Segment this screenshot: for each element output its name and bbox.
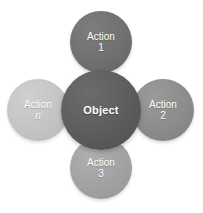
node-action-n[interactable]: Action n	[7, 79, 69, 141]
node-action-2-label-line2: 2	[160, 110, 166, 121]
node-action-3-label-line1: Action	[87, 157, 115, 168]
node-action-3-label-line2: 3	[98, 168, 104, 179]
node-object-center[interactable]: Object	[61, 70, 141, 150]
node-action-1-label-line2: 1	[98, 42, 104, 53]
node-object-label: Object	[83, 104, 118, 116]
node-action-1-label-line1: Action	[87, 31, 115, 42]
node-action-2-label-line1: Action	[149, 99, 177, 110]
node-action-1[interactable]: Action 1	[70, 11, 132, 73]
radial-action-diagram: Action 1 Action 2 Action 3 Action n Obje…	[0, 0, 203, 213]
node-action-2[interactable]: Action 2	[132, 79, 194, 141]
node-action-n-label-line1: Action	[24, 99, 52, 110]
node-action-n-label-line2: n	[35, 110, 41, 121]
